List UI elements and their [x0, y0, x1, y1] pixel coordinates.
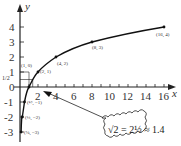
x-tick-6: 6	[71, 90, 77, 102]
y-axis-arrow-icon	[17, 4, 23, 12]
point-8-3	[91, 41, 94, 44]
x-tick-16: 16	[158, 90, 170, 102]
label-1-0: (1, 0)	[21, 63, 32, 69]
y-tick-0: 0	[9, 81, 15, 93]
y-tick-neg3: -3	[4, 126, 14, 138]
point-half	[23, 101, 26, 104]
callout-arrow-icon	[43, 91, 52, 97]
x-tick-12: 12	[122, 90, 133, 102]
point-4-2	[55, 56, 58, 59]
label-8-3: (8, 3)	[92, 45, 103, 51]
x-axis-label: x	[171, 87, 177, 99]
point-quarter	[21, 116, 24, 119]
point-16-4	[163, 26, 166, 29]
x-tick-10: 10	[104, 90, 116, 102]
y-axis-label: y	[24, 0, 30, 12]
point-eighth	[20, 131, 23, 134]
y-half-label: 1/2	[2, 75, 10, 81]
y-tick-neg2: -2	[4, 111, 13, 123]
x-tick-14: 14	[140, 90, 152, 102]
label-2-1: (2, 1)	[40, 69, 51, 75]
y-tick-neg1: -1	[4, 96, 13, 108]
label-16-4: (16, 4)	[156, 32, 170, 38]
x-tick-8: 8	[89, 90, 95, 102]
label-4-2: (4, 2)	[57, 61, 68, 67]
y-tick-2: 2	[9, 51, 15, 63]
point-1-0	[28, 86, 31, 89]
y-tick-4: 4	[9, 21, 15, 33]
point-2-1	[37, 71, 40, 74]
label-half: (½, −1)	[27, 100, 42, 106]
label-eighth: (⅛, −3)	[24, 130, 39, 136]
y-tick-1: 1	[9, 66, 15, 78]
label-quarter: (¼, −2)	[25, 115, 40, 121]
callout-text: √2 = 2½ ≈ 1.4	[108, 124, 165, 135]
y-tick-3: 3	[9, 36, 15, 48]
log-graph: 2 4 6 8 10 12 14 16 x 4 3 2 1 0 -1 -2 -3…	[0, 0, 181, 146]
